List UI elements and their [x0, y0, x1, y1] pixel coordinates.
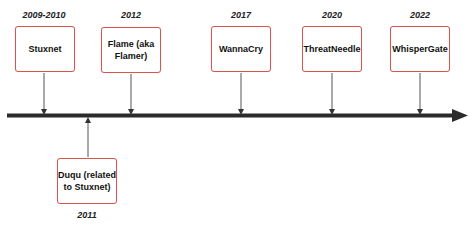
- event-box-threatneedle: ThreatNeedle: [302, 26, 362, 72]
- event-box-wannacry: WannaCry: [211, 26, 271, 72]
- event-year: 2017: [206, 10, 276, 20]
- event-box-duqu: Duqu (related to Stuxnet): [57, 158, 117, 204]
- event-year: 2022: [385, 10, 455, 20]
- event-year: 2009-2010: [9, 10, 79, 20]
- event-year: 2020: [297, 10, 367, 20]
- event-box-flame: Flame (aka Flamer): [101, 27, 161, 73]
- event-box-stuxnet: Stuxnet: [15, 26, 75, 72]
- event-year: 2012: [96, 10, 166, 20]
- event-year: 2011: [52, 210, 122, 220]
- event-box-whispergate: WhisperGate: [390, 26, 450, 72]
- timeline-arrowhead-icon: [452, 109, 468, 122]
